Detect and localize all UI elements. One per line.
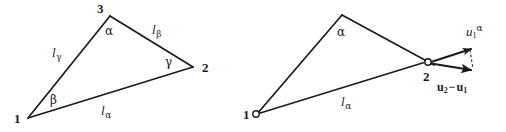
vector-label-u1-alpha-sup: α	[477, 23, 483, 33]
left-vertex-label-1: 1	[14, 112, 21, 125]
vector-label-u2-minus-u1: u2−u1	[437, 81, 467, 95]
node-marker-1	[253, 111, 259, 117]
left-edge-l-gamma	[28, 16, 110, 118]
left-edge-label-l-gamma-sub: γ	[56, 52, 61, 62]
right-edge-left-leg	[257, 15, 342, 114]
vector-label-u1-alpha: u1α	[466, 24, 483, 40]
figure-drawing	[0, 0, 506, 132]
right-edge-right-leg	[342, 15, 434, 65]
node-marker-2	[425, 59, 431, 65]
vector-label-u1-sub: 1	[463, 86, 467, 95]
left-vertex-label-3: 3	[97, 2, 104, 15]
left-angle-label-gamma: γ	[165, 56, 172, 68]
left-angle-label-beta: β	[50, 94, 57, 106]
vector-label-u2-base: u	[437, 80, 444, 94]
right-edge-label-l-alpha: lα	[341, 95, 351, 111]
right-angle-label-alpha: α	[337, 26, 345, 38]
right-vertex-label-2: 2	[423, 70, 430, 83]
left-edge-label-l-beta-sub: β	[156, 29, 161, 39]
left-edge-label-l-beta: lβ	[152, 23, 161, 39]
right-triangle-group	[253, 15, 473, 117]
vector-u1-alpha	[428, 49, 471, 63]
right-vertex-label-1: 1	[243, 108, 250, 121]
left-vertex-label-2: 2	[202, 61, 209, 74]
left-edge-label-l-alpha-sub: α	[105, 110, 111, 120]
vector-label-u2-sub: 2	[444, 86, 448, 95]
left-edge-label-l-alpha: lα	[101, 104, 111, 120]
left-edge-label-l-gamma: lγ	[52, 46, 62, 62]
vector-u2-minus-u1	[428, 63, 471, 70]
figure-container: 1 2 3 α β γ lα lβ lγ 1 2 α lα u1α u2−u1	[0, 0, 506, 132]
left-angle-label-alpha: α	[105, 25, 113, 37]
dashed-connector	[470, 50, 473, 69]
right-edge-label-l-alpha-sub: α	[345, 101, 351, 111]
vector-label-minus-operator: −	[449, 80, 456, 94]
